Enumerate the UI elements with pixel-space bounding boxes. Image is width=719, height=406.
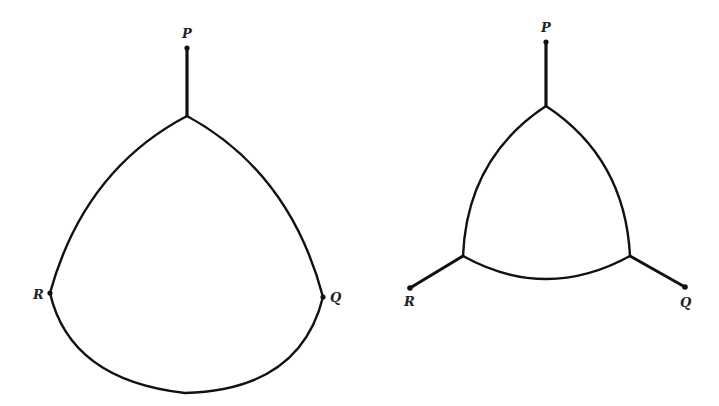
diagram-canvas: P R Q P R Q [0,0,719,406]
left-arc-r-to-q [50,293,323,393]
right-terminal-r-dot [407,285,413,291]
right-arc-top-to-right [546,106,630,256]
left-terminal-q-dot [320,294,325,299]
left-figure: P R Q [32,26,342,393]
right-terminal-q-dot [682,284,688,290]
right-terminal-p-dot [543,39,548,44]
right-label-r: R [403,294,415,309]
left-terminal-p-dot [184,45,189,50]
right-label-q: Q [680,295,692,310]
right-stem-r [410,256,463,288]
right-figure: P R Q [403,20,692,310]
right-stem-q [630,256,685,287]
left-arc-junction-to-q [187,116,323,297]
left-label-p: P [181,26,193,41]
right-label-p: P [540,20,552,35]
right-arc-bottom [463,256,630,279]
left-label-q: Q [330,290,342,305]
right-arc-top-to-left [463,106,546,256]
left-label-r: R [32,287,44,302]
left-arc-junction-to-r [50,116,187,293]
left-terminal-r-dot [47,290,52,295]
